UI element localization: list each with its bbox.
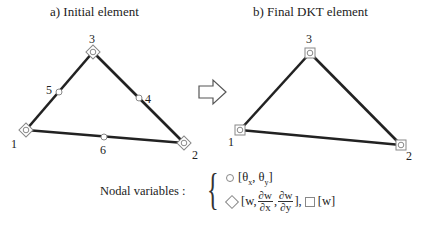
- fraction-dw-dy: ∂w ∂y: [278, 190, 293, 213]
- node-b3-square-icon: [305, 48, 315, 58]
- node-a4-circle-icon: [136, 95, 142, 101]
- frac2-denominator: ∂y: [280, 202, 291, 213]
- legend-row1-close: ]: [268, 170, 272, 184]
- legend-row2-open: [w,: [241, 194, 257, 209]
- legend-row-rotations: [θx, θy]: [226, 170, 273, 187]
- legend-row1-open: [θ: [238, 170, 248, 184]
- legend-row-deflection-slopes: [w, ∂w ∂x , ∂w ∂y ], [w]: [224, 190, 335, 213]
- right-arrow-icon: [199, 80, 226, 104]
- square-icon: [305, 197, 315, 207]
- node-a6-circle-icon: [101, 134, 107, 140]
- initial-element-triangle: [26, 52, 184, 143]
- legend-row2-square-text: [w]: [318, 194, 335, 209]
- node-a5-circle-icon: [56, 89, 62, 95]
- node-a1-label: 1: [11, 137, 17, 151]
- curly-brace-icon: {: [207, 168, 219, 212]
- node-a5-label: 5: [46, 83, 52, 97]
- node-a3-label: 3: [89, 32, 95, 46]
- circle-icon: [226, 174, 234, 182]
- legend-row1-sep: , θ: [252, 170, 264, 184]
- node-b1-square-icon: [235, 125, 245, 135]
- frac1-denominator: ∂x: [260, 202, 271, 213]
- node-b2-square-icon: [396, 140, 406, 150]
- node-a6-label: 6: [100, 143, 106, 157]
- node-b2-label: 2: [406, 149, 412, 163]
- final-dkt-triangle: [240, 53, 401, 145]
- diamond-icon: [225, 194, 239, 208]
- node-a2-label: 2: [192, 148, 198, 162]
- node-a4-label: 4: [145, 92, 151, 106]
- fraction-dw-dx: ∂w ∂x: [258, 190, 273, 213]
- node-b1-label: 1: [228, 135, 234, 149]
- legend-row2-close: ],: [294, 194, 301, 209]
- node-b3-label: 3: [306, 32, 312, 46]
- legend-row2-comma: ,: [274, 194, 277, 209]
- legend-label: Nodal variables :: [100, 184, 185, 199]
